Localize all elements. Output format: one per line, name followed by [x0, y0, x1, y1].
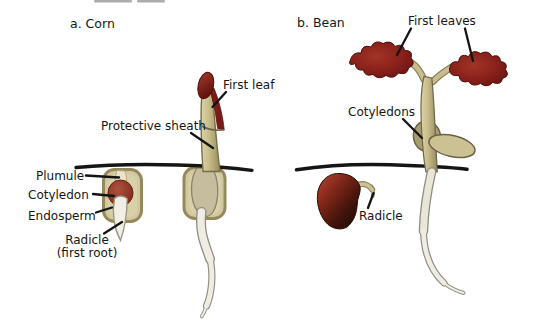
corn-root — [201, 212, 212, 317]
bean-seed-shape — [317, 173, 360, 228]
label-first-leaf: First leaf — [223, 79, 274, 92]
bean-root — [424, 172, 464, 293]
bean-first-leaf-right — [450, 52, 508, 86]
bean-first-leaf-left — [350, 42, 414, 78]
label-cotyledon: Cotyledon — [28, 189, 89, 202]
label-plumule: Plumule — [36, 170, 84, 183]
cropped-artifact-bar — [94, 0, 165, 3]
germination-diagram: a. Corn b. Bean First leaf Protective sh… — [0, 0, 540, 334]
label-cotyledons: Cotyledons — [348, 106, 415, 119]
label-radicle-corn: Radicle (first root) — [52, 234, 122, 260]
label-endosperm: Endosperm — [28, 210, 96, 223]
label-protective-sheath: Protective sheath — [101, 120, 206, 133]
label-radicle-bean: Radicle — [359, 210, 403, 223]
bean-seed-radicle-hook — [359, 184, 374, 196]
label-first-leaves: First leaves — [408, 15, 476, 28]
corn-panel-title: a. Corn — [70, 17, 115, 30]
soil-line-corn — [76, 164, 252, 170]
diagram-artwork — [0, 0, 540, 334]
bean-stem — [421, 77, 437, 172]
label-radicle-corn-line2: (first root) — [52, 247, 122, 260]
bean-panel-title: b. Bean — [297, 16, 345, 29]
pointer-radicle-bean — [368, 193, 374, 208]
soil-line-bean — [297, 165, 468, 170]
